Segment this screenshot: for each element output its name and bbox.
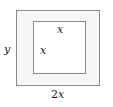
square-left-side-label-x: x <box>40 45 46 56</box>
base-label-2x: 2x <box>51 89 64 100</box>
geometry-figure: y x x 2x <box>0 0 113 107</box>
square-top-side-label-x: x <box>57 24 63 35</box>
base-label-coefficient: 2 <box>51 88 58 101</box>
height-label-y: y <box>4 44 10 55</box>
base-label-variable: x <box>58 88 64 101</box>
